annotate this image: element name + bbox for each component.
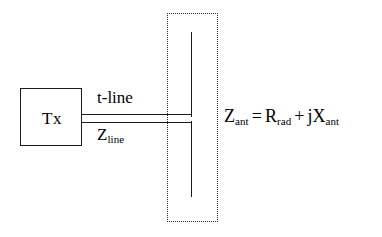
dipole-lower-arm bbox=[191, 121, 192, 197]
antenna-transmission-line-diagram: Tx t-line Zline Zant=Rrad+jXant bbox=[0, 0, 382, 237]
transmitter-box: Tx bbox=[20, 88, 82, 146]
equation-radiation-resistance-symbol: R bbox=[265, 106, 277, 126]
equation-reactance-subscript: ant bbox=[325, 115, 339, 127]
antenna-impedance-equation: Zant=Rrad+jXant bbox=[224, 107, 339, 127]
antenna-enclosure-dotted-box bbox=[167, 13, 218, 222]
transmitter-label: Tx bbox=[21, 89, 83, 147]
t-line-label: t-line bbox=[97, 89, 133, 106]
equation-lhs-subscript: ant bbox=[235, 115, 249, 127]
equation-reactance-symbol: jX bbox=[307, 106, 325, 126]
equation-radiation-resistance-subscript: rad bbox=[277, 115, 291, 127]
line-impedance-symbol: Z bbox=[97, 125, 107, 144]
equation-plus-sign: + bbox=[291, 106, 307, 126]
dipole-upper-arm bbox=[191, 32, 192, 117]
line-impedance-label: Zline bbox=[97, 126, 124, 145]
equation-equals-sign: = bbox=[249, 106, 265, 126]
equation-lhs-symbol: Z bbox=[224, 106, 235, 126]
line-impedance-subscript: line bbox=[107, 133, 124, 145]
